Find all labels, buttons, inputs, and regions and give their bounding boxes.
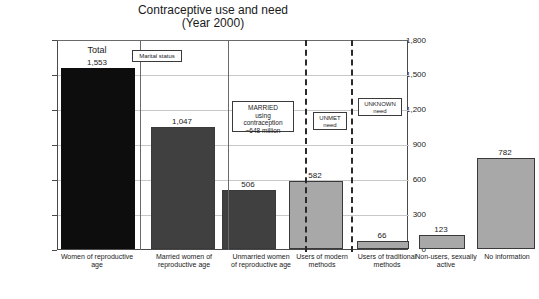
- x-label-women-of-reproductive-age: Women of reproductive age: [57, 253, 137, 269]
- x-label-unmarried-women: Unmarried women of reproductive age: [230, 253, 292, 269]
- bar-users-modern-methods: [289, 181, 343, 249]
- separator-unmet-need: [305, 40, 307, 252]
- bar-non-users-sexually-active: [419, 235, 465, 249]
- callout-married-using-contraception: MARRIED using contraception ~648 million: [232, 101, 294, 132]
- callout-marital-status: Marital status: [132, 50, 182, 62]
- separator-after-marital: [228, 40, 229, 250]
- chart-subtitle: (Year 2000): [0, 17, 426, 30]
- bar-married-women: [151, 127, 215, 249]
- bar-value-users-modern-methods: 582: [288, 171, 342, 180]
- x-label-married-women: Married women of reproductive age: [142, 253, 226, 269]
- plot-area: [57, 40, 408, 250]
- bar-no-information: [477, 158, 535, 249]
- bar-value-married-women: 1,047: [150, 117, 214, 126]
- bar-value-women-of-reproductive-age: 1,553: [60, 58, 134, 67]
- callout-unmet-need: UNMET need: [313, 112, 347, 130]
- bar-value-users-traditional-methods: 66: [356, 231, 408, 240]
- callout-unknown-need: UNKNOWN need: [358, 98, 402, 116]
- y-tick-mark-0: [52, 250, 57, 251]
- bar-women-of-reproductive-age: [61, 68, 135, 249]
- bar-value-unmarried-women: 506: [221, 180, 275, 189]
- separator-after-total: [140, 40, 141, 250]
- bar-unmarried-women: [222, 190, 276, 249]
- x-label-users-modern-methods: Users of modern methods: [289, 253, 355, 269]
- chart-title-block: Contraceptive use and need (Year 2000): [0, 4, 426, 30]
- bar-value-no-information: 782: [476, 148, 534, 157]
- bar-value-non-users-sexually-active: 123: [418, 225, 464, 234]
- separator-unknown-need: [351, 40, 353, 252]
- bar-users-traditional-methods: [357, 241, 409, 249]
- x-label-no-information: No information: [470, 253, 539, 261]
- bar-label-total: Total: [60, 45, 134, 55]
